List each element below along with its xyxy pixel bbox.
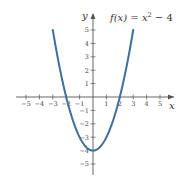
x-axis-label: x	[169, 100, 175, 111]
y-tick-label: 3	[85, 53, 89, 61]
x-tick-label: −4	[35, 100, 45, 108]
y-tick-label: −1	[79, 107, 89, 115]
y-axis-arrow-icon	[91, 13, 96, 19]
chart-title: f(x) = x2 − 4	[109, 11, 173, 23]
x-tick-label: 3	[131, 100, 135, 108]
y-tick-label: 2	[85, 67, 89, 75]
y-tick-label: 1	[85, 80, 89, 88]
x-tick-label: 1	[104, 100, 108, 108]
function-graph: −5−4−3−2−11234554321−1−2−3−4−5 x y f(x) …	[0, 0, 184, 177]
x-tick-label: 5	[158, 100, 162, 108]
y-axis-label: y	[81, 10, 88, 21]
y-tick-label: 5	[85, 26, 89, 34]
x-axis-arrow-icon	[168, 95, 174, 100]
x-tick-label: −5	[21, 100, 31, 108]
x-tick-label: −3	[48, 100, 58, 108]
y-tick-label: 4	[85, 40, 89, 48]
title-rhs: − 4	[152, 12, 173, 23]
y-tick-label: −5	[79, 160, 89, 168]
y-tick-label: −2	[79, 120, 89, 128]
x-tick-label: 4	[145, 100, 149, 108]
title-lhs: f(x) = x	[109, 12, 148, 23]
